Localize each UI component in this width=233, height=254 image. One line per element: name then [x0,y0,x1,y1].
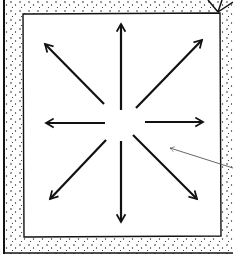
diagram-frame [0,0,233,254]
